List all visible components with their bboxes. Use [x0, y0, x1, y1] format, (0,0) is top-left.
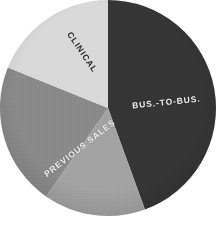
pie-edge-shading: [0, 0, 216, 216]
pie-chart: BUS.-TO-BUS. CLINICAL PREVIOUS SALES: [0, 0, 224, 232]
pie-chart-canvas: [0, 0, 224, 232]
